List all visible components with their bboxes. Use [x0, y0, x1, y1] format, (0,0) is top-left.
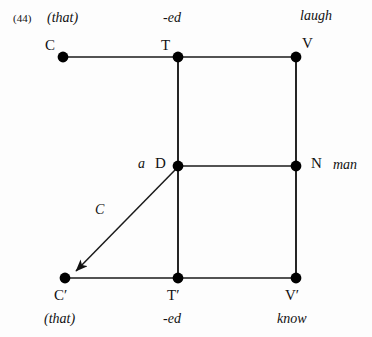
node-label-tprime: T′ — [167, 288, 179, 303]
node-dot-t — [173, 52, 184, 63]
word-label-man: man — [333, 158, 357, 172]
word-label-ed-top: -ed — [163, 11, 181, 25]
node-dot-d — [173, 161, 184, 172]
node-label-t: T — [161, 38, 170, 53]
word-label-that-bottom: (that) — [44, 312, 75, 326]
node-dot-v — [291, 52, 302, 63]
node-label-vprime: V′ — [285, 288, 299, 303]
edge-label-movement-c: C — [95, 203, 104, 217]
node-dot-cprime — [60, 273, 71, 284]
word-label-a-det: a — [138, 157, 145, 171]
node-dot-n — [291, 161, 302, 172]
word-label-laugh: laugh — [300, 9, 332, 23]
word-label-that-top: (that) — [47, 11, 78, 25]
node-label-v: V — [302, 36, 313, 51]
node-dot-vprime — [291, 273, 302, 284]
node-label-d: D — [155, 156, 166, 171]
word-label-know: know — [277, 312, 307, 326]
edge-d-to-cprime-movement — [76, 169, 176, 271]
node-label-n: N — [311, 156, 322, 171]
syntax-tree-figure: (44) (that) -ed laugh C T V a D N man C … — [0, 0, 372, 337]
node-dot-c — [58, 52, 69, 63]
example-number: (44) — [13, 13, 31, 24]
node-label-cprime: C′ — [54, 288, 67, 303]
node-dot-tprime — [173, 273, 184, 284]
node-label-c: C — [45, 38, 55, 53]
word-label-ed-bottom: -ed — [163, 312, 181, 326]
